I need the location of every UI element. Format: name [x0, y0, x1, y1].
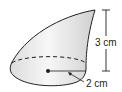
height-label: 3 cm [95, 38, 117, 48]
cone-surface [10, 10, 95, 86]
radius-label: 2 cm [86, 79, 108, 89]
